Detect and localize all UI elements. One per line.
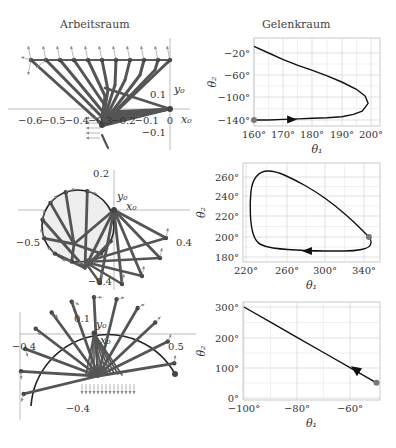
- vector-arrowhead: [125, 391, 128, 394]
- start-marker: [366, 234, 372, 240]
- y-tick-label: 300°: [215, 302, 239, 313]
- y-tick-label: 100°: [215, 363, 239, 374]
- vector-arrowhead: [133, 391, 136, 394]
- workspace-panel-top: −0.6−0.5−0.4−0.3−0.2−0.100.1−0.1y₀x₀: [8, 38, 192, 150]
- robot-link: [115, 60, 116, 85]
- vector-arrowhead: [25, 353, 28, 356]
- x-tick-label: −100°: [228, 403, 260, 414]
- x-tick-label: −0.4: [65, 115, 89, 126]
- x-tick-label: 340°: [352, 265, 376, 276]
- x-tick-label: 190°: [330, 129, 354, 140]
- plot-frame: [243, 302, 380, 400]
- robot-link: [102, 135, 108, 148]
- x-axis-label: θ₁: [306, 279, 317, 292]
- vector-arrowhead: [113, 391, 116, 394]
- x-tick-label: −0.6: [18, 115, 42, 126]
- x-tick-label: 160°: [242, 129, 266, 140]
- y-tick-label: 240°: [215, 191, 239, 202]
- robot-joint: [167, 106, 173, 112]
- vector-arrowhead: [121, 297, 124, 300]
- y-tick-label: 200°: [215, 232, 239, 243]
- vector-arrowhead: [85, 391, 88, 394]
- joint-chart-2: −100°−80°−60°0°100°200°300°θ₁θ₂: [195, 302, 380, 431]
- y-tick-label: 180°: [215, 252, 239, 263]
- x-axis-label: x₀: [181, 113, 192, 126]
- y-tick-label: 0°: [228, 393, 239, 404]
- x-tick-label: −0.2: [111, 115, 135, 126]
- y-tick-label: −0.4: [88, 276, 112, 287]
- vector-arrowhead: [121, 391, 124, 394]
- y-axis-label: θ₂: [206, 76, 219, 87]
- y-tick-label: 0.1: [150, 89, 166, 100]
- vector-arrowhead: [160, 248, 163, 251]
- x-tick-label: −0.5: [16, 237, 40, 248]
- vector-arrowhead: [166, 228, 169, 231]
- x-tick-label: −0.4: [12, 341, 36, 352]
- vector-arrowhead: [154, 46, 157, 49]
- y-tick-label: −20°: [224, 48, 250, 59]
- vector-arrowhead: [109, 391, 112, 394]
- y-axis-label: θ₂: [195, 345, 208, 356]
- x-tick-label: 220°: [234, 265, 258, 276]
- robot-link: [114, 210, 166, 238]
- x-tick-label: −0.5: [41, 115, 65, 126]
- x-tick-label: 170°: [271, 129, 295, 140]
- vector-arrowhead: [70, 46, 73, 49]
- vector-arrowhead: [129, 391, 132, 394]
- vector-arrowhead: [142, 266, 145, 269]
- vector-arrowhead: [81, 391, 84, 394]
- x-axis-label: x₀: [100, 334, 111, 347]
- y-tick-label: 0.1: [74, 313, 90, 324]
- robot-link: [140, 60, 144, 75]
- x-tick-label: 300°: [313, 265, 337, 276]
- y-tick-label: −100°: [218, 92, 250, 103]
- vector-arrowhead: [42, 46, 45, 49]
- plot-frame: [254, 38, 380, 126]
- vector-arrowhead: [84, 46, 87, 49]
- y-axis-label: θ₂: [195, 207, 208, 218]
- x-axis-label: x₀: [126, 200, 137, 213]
- y-axis-label: y₀: [95, 318, 107, 331]
- x-tick-label: 0.4: [176, 237, 192, 248]
- start-marker: [251, 117, 257, 123]
- y-tick-label: −0.1: [142, 127, 166, 138]
- y-tick-label: 220°: [215, 211, 239, 222]
- start-marker: [374, 380, 380, 386]
- x-tick-label: −0.3: [88, 115, 112, 126]
- vector-arrowhead: [86, 137, 89, 140]
- vector-arrowhead: [112, 46, 115, 49]
- joint-chart-1: 220°260°300°340°180°200°220°240°260°θ₁θ₂: [195, 163, 380, 292]
- y-tick-label: 200°: [215, 333, 239, 344]
- vector-arrowhead: [126, 46, 129, 49]
- joint-chart-0: 160°170°180°190°200°−20°−60°−100°−140°θ₁…: [206, 38, 383, 156]
- vector-arrowhead: [93, 391, 96, 394]
- robot-joint: [111, 207, 117, 213]
- x-tick-label: 0: [167, 115, 173, 126]
- workspace-panel-bottom: −0.40.50.1−0.4y₀x₀: [12, 295, 196, 420]
- vector-arrowhead: [105, 391, 108, 394]
- y-tick-label: −140°: [218, 115, 250, 126]
- vector-arrowhead: [21, 398, 24, 401]
- x-axis-label: θ₁: [306, 417, 317, 430]
- vector-arrowhead: [27, 72, 30, 75]
- end-effector-circle: [42, 190, 114, 262]
- vector-arrowhead: [140, 46, 143, 49]
- vector-arrowhead: [101, 391, 104, 394]
- vector-arrowhead: [166, 46, 169, 49]
- x-tick-label: 260°: [275, 265, 299, 276]
- y-tick-label: 0.2: [93, 168, 109, 179]
- x-tick-label: 180°: [300, 129, 324, 140]
- y-tick-label: −60°: [224, 70, 250, 81]
- robot-link: [102, 60, 108, 90]
- robot-joint: [172, 371, 178, 377]
- vector-arrowhead: [86, 127, 89, 130]
- y-axis-label: y₀: [173, 83, 185, 96]
- y-tick-label: −0.4: [66, 403, 90, 414]
- vector-arrowhead: [117, 391, 120, 394]
- x-tick-label: −60°: [337, 403, 363, 414]
- vector-arrowhead: [94, 192, 97, 195]
- x-tick-label: 0.5: [168, 341, 184, 352]
- figure-canvas: 160°170°180°190°200°−20°−60°−100°−140°θ₁…: [0, 0, 396, 448]
- vector-arrowhead: [56, 46, 59, 49]
- x-tick-label: 200°: [359, 129, 383, 140]
